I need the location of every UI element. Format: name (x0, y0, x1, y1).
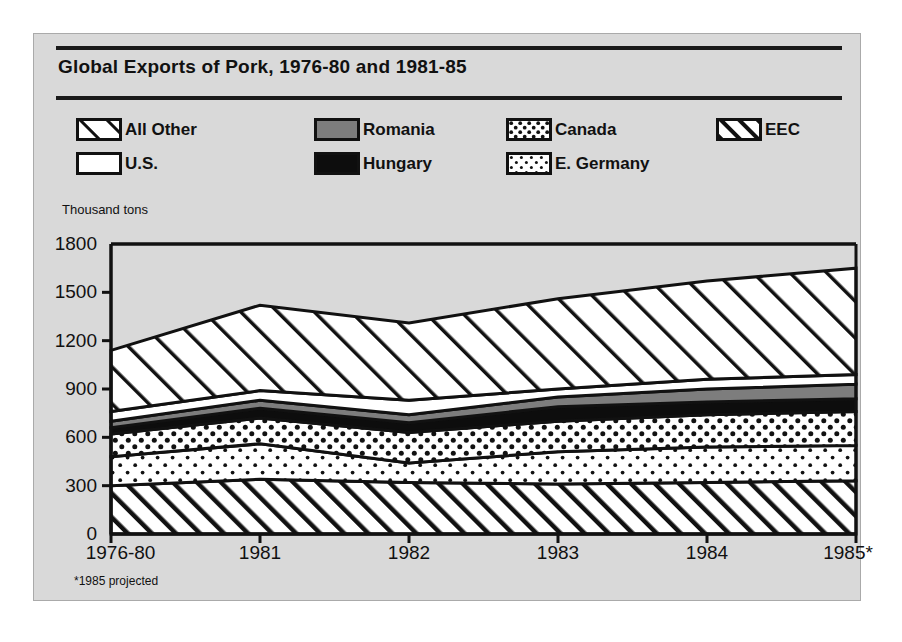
y-axis-tick-label: 1500 (35, 281, 97, 303)
x-axis-tick-label: 1984 (686, 542, 728, 564)
x-axis-tick-label: 1983 (537, 542, 579, 564)
area-bands (111, 268, 856, 534)
area-band-eec (111, 479, 856, 534)
y-axis-tick-label: 300 (35, 475, 97, 497)
figure-panel: Global Exports of Pork, 1976-80 and 1981… (33, 33, 861, 601)
x-axis-tick-label: 1982 (388, 542, 430, 564)
y-axis-tick-label: 600 (35, 426, 97, 448)
x-axis-tick-label: 1985* (823, 542, 873, 564)
plot-area: 0300600900120015001800 1976-801981198219… (34, 34, 862, 602)
y-axis-tick-label: 900 (35, 378, 97, 400)
y-axis-tick-label: 1800 (35, 233, 97, 255)
x-axis-tick-label: 1981 (239, 542, 281, 564)
x-axis-tick-label: 1976-80 (86, 542, 156, 564)
y-axis-tick-label: 1200 (35, 330, 97, 352)
stacked-area-chart (34, 34, 862, 602)
chart-footnote: *1985 projected (74, 574, 158, 588)
